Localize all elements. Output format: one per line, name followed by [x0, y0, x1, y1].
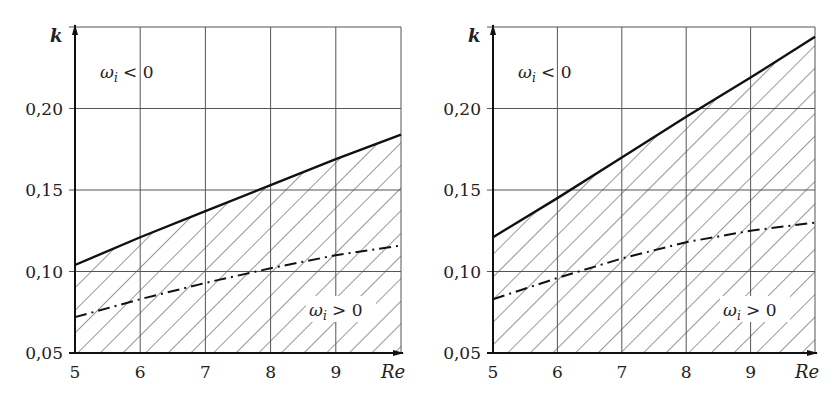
x-tick-label: 6: [135, 362, 146, 382]
chart-panel-right: 567890,050,100,150,20kReωi < 0ωi > 0: [443, 24, 819, 382]
x-axis-label: Re: [794, 361, 819, 382]
x-tick-label: 7: [616, 362, 627, 382]
unstable-region-label: ωi > 0: [309, 300, 363, 323]
x-tick-label: 9: [745, 362, 756, 382]
y-axis-label: k: [50, 25, 62, 46]
y-tick-label: 0,15: [25, 180, 63, 200]
y-tick-label: 0,10: [443, 262, 481, 282]
x-tick-label: 5: [488, 362, 499, 382]
x-tick-label: 8: [265, 362, 276, 382]
stable-region-label: ωi < 0: [518, 62, 572, 85]
unstable-region-label: ωi > 0: [723, 300, 777, 323]
x-axis-label: Re: [380, 361, 405, 382]
y-axis-arrow-icon: [72, 24, 78, 35]
x-tick-label: 6: [552, 362, 563, 382]
y-tick-label: 0,20: [443, 99, 481, 119]
chart-panel-left: 567890,050,100,150,20kReωi < 0ωi > 0: [25, 24, 405, 382]
y-tick-label: 0,10: [25, 262, 63, 282]
y-tick-label: 0,05: [25, 343, 63, 363]
x-tick-label: 7: [200, 362, 211, 382]
stable-region-label: ωi < 0: [100, 62, 154, 85]
chart-canvas: 567890,050,100,150,20kReωi < 0ωi > 05678…: [0, 0, 836, 419]
y-tick-label: 0,20: [25, 99, 63, 119]
y-tick-label: 0,15: [443, 180, 481, 200]
x-tick-label: 9: [330, 362, 341, 382]
x-tick-label: 8: [681, 362, 692, 382]
y-tick-label: 0,05: [443, 343, 481, 363]
y-axis-arrow-icon: [490, 24, 496, 35]
y-axis-label: k: [468, 25, 480, 46]
x-tick-label: 5: [70, 362, 81, 382]
